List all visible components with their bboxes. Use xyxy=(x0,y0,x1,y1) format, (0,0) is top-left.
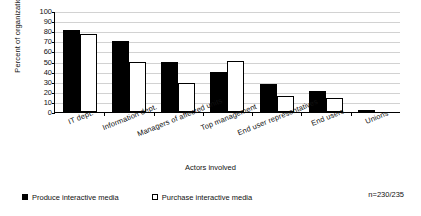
bar-purchase[interactable] xyxy=(227,61,244,113)
x-axis-title: Actors involved xyxy=(0,163,421,172)
y-axis-tick-label: 50 xyxy=(30,59,52,67)
y-axis-tick-label: 60 xyxy=(30,48,52,56)
y-axis-tick-label: 20 xyxy=(30,89,52,97)
bar-groups xyxy=(55,12,400,112)
bar-group xyxy=(55,12,104,112)
y-axis-tick-label: 70 xyxy=(30,38,52,46)
bar-produce[interactable] xyxy=(112,41,129,112)
bar-group xyxy=(301,12,350,112)
bar-produce[interactable] xyxy=(63,30,80,112)
y-axis-tick-label: 80 xyxy=(30,28,52,36)
bar-produce[interactable] xyxy=(260,84,277,112)
x-axis-tick-labels: IT dept.Information dept.Managers of aff… xyxy=(54,113,400,168)
y-axis-tick-label: 10 xyxy=(30,99,52,107)
legend-item-purchase: Purchase interactive media xyxy=(152,193,252,202)
y-axis-tick-label: 40 xyxy=(30,69,52,77)
bar-group xyxy=(154,12,203,112)
chart-legend: Produce interactive media Purchase inter… xyxy=(22,190,412,204)
legend-label-purchase: Purchase interactive media xyxy=(162,193,252,202)
bar-chart-figure: Percent of organizations 100908070605040… xyxy=(0,0,421,216)
bar-group xyxy=(104,12,153,112)
legend-item-produce: Produce interactive media xyxy=(22,193,119,202)
legend-swatch-open-square-icon xyxy=(152,194,158,200)
y-axis-tick-label: 30 xyxy=(30,79,52,87)
y-axis-title: Percent of organizations xyxy=(13,0,25,91)
plot-area: 1009080706050403020100 xyxy=(54,12,400,113)
bar-produce[interactable] xyxy=(358,110,375,112)
legend-label-produce: Produce interactive media xyxy=(32,193,119,202)
bar-purchase[interactable] xyxy=(80,34,97,112)
bar-group xyxy=(252,12,301,112)
legend-swatch-filled-square-icon xyxy=(22,194,28,200)
sample-size-annotation: n=230/235 xyxy=(368,190,404,199)
bar-group xyxy=(203,12,252,112)
y-axis-tick-label: 100 xyxy=(30,8,52,16)
y-axis-tick-label: 0 xyxy=(30,109,52,117)
bar-produce[interactable] xyxy=(161,62,178,113)
y-axis-tick-label: 90 xyxy=(30,18,52,26)
bar-purchase[interactable] xyxy=(129,62,146,113)
bar-group xyxy=(351,12,400,112)
